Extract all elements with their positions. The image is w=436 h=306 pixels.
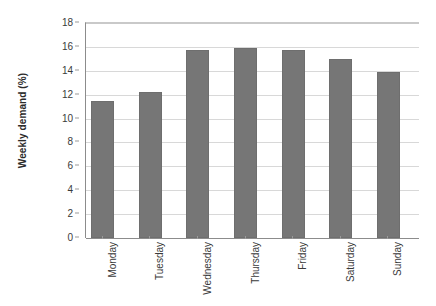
y-tick-mark bbox=[75, 117, 79, 118]
x-tick-label: Tuesday bbox=[154, 240, 166, 306]
x-tick-mark bbox=[102, 236, 103, 239]
y-tick-mark bbox=[75, 45, 79, 46]
y-tick-label: 4 bbox=[67, 184, 73, 195]
y-axis-title-label: Weekly demand (%) bbox=[18, 72, 29, 167]
bar bbox=[91, 101, 114, 238]
bar-chart-figure: Weekly demand (%) 024681012141618 Monday… bbox=[0, 0, 436, 306]
y-tick-label: 8 bbox=[67, 136, 73, 147]
x-tick-mark bbox=[340, 236, 341, 239]
y-tick-mark bbox=[75, 189, 79, 190]
y-axis-tick-labels: 024681012141618 bbox=[46, 22, 79, 237]
x-tick-mark bbox=[245, 236, 246, 239]
x-tick-mark bbox=[292, 236, 293, 239]
bar bbox=[377, 72, 400, 238]
y-tick-mark bbox=[75, 141, 79, 142]
x-axis-tick-labels: MondayTuesdayWednesdayThursdayFridaySatu… bbox=[85, 240, 418, 306]
x-tick-mark bbox=[149, 236, 150, 239]
y-tick-mark bbox=[75, 93, 79, 94]
y-tick-mark bbox=[75, 165, 79, 166]
y-tick-mark bbox=[75, 69, 79, 70]
x-tick-label: Wednesday bbox=[202, 240, 214, 306]
bar bbox=[329, 59, 352, 238]
y-tick-mark bbox=[75, 213, 79, 214]
y-tick-label: 14 bbox=[62, 64, 73, 75]
bars-group bbox=[86, 23, 419, 238]
x-tick-label: Saturday bbox=[345, 240, 357, 306]
y-tick-label: 12 bbox=[62, 88, 73, 99]
y-tick-label: 18 bbox=[62, 17, 73, 28]
plot-area bbox=[85, 22, 419, 238]
x-tick-label: Sunday bbox=[392, 240, 404, 306]
x-tick-mark bbox=[387, 236, 388, 239]
gridline bbox=[86, 238, 419, 239]
y-tick-label: 6 bbox=[67, 160, 73, 171]
x-tick-label: Monday bbox=[107, 240, 119, 306]
bar bbox=[282, 50, 305, 238]
y-axis-title: Weekly demand (%) bbox=[0, 0, 46, 240]
y-tick-mark bbox=[75, 22, 79, 23]
bar bbox=[186, 50, 209, 238]
y-tick-mark bbox=[75, 237, 79, 238]
x-tick-label: Friday bbox=[297, 240, 309, 306]
x-tick-label: Thursday bbox=[250, 240, 262, 306]
bar bbox=[234, 48, 257, 239]
y-tick-label: 10 bbox=[62, 112, 73, 123]
y-tick-label: 2 bbox=[67, 208, 73, 219]
y-tick-label: 0 bbox=[67, 232, 73, 243]
bar bbox=[139, 92, 162, 238]
x-tick-mark bbox=[197, 236, 198, 239]
y-tick-label: 16 bbox=[62, 40, 73, 51]
